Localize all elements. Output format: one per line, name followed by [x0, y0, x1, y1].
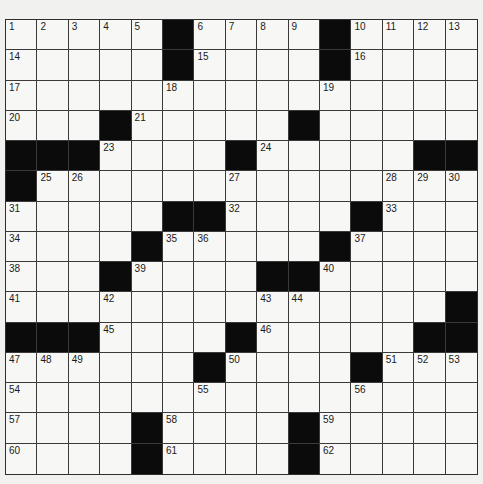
crossword-cell[interactable] [383, 262, 414, 292]
crossword-cell[interactable] [289, 81, 320, 111]
crossword-cell[interactable] [132, 50, 163, 80]
crossword-cell[interactable] [257, 81, 288, 111]
crossword-cell[interactable]: 55 [194, 383, 225, 413]
crossword-cell[interactable]: 20 [6, 111, 37, 141]
crossword-cell[interactable] [163, 141, 194, 171]
crossword-cell[interactable]: 52 [414, 353, 445, 383]
crossword-cell[interactable]: 4 [100, 20, 131, 50]
crossword-cell[interactable] [320, 171, 351, 201]
crossword-cell[interactable] [226, 262, 257, 292]
crossword-cell[interactable]: 18 [163, 81, 194, 111]
crossword-cell[interactable] [163, 292, 194, 322]
crossword-cell[interactable] [100, 202, 131, 232]
crossword-cell[interactable]: 35 [163, 232, 194, 262]
crossword-cell[interactable] [289, 232, 320, 262]
crossword-cell[interactable] [289, 323, 320, 353]
crossword-cell[interactable] [289, 141, 320, 171]
crossword-cell[interactable] [69, 232, 100, 262]
crossword-cell[interactable] [351, 323, 382, 353]
crossword-cell[interactable]: 50 [226, 353, 257, 383]
crossword-cell[interactable] [194, 111, 225, 141]
crossword-cell[interactable]: 10 [351, 20, 382, 50]
crossword-cell[interactable] [100, 383, 131, 413]
crossword-cell[interactable] [414, 202, 445, 232]
crossword-cell[interactable] [226, 444, 257, 474]
crossword-cell[interactable] [289, 171, 320, 201]
crossword-cell[interactable] [226, 413, 257, 443]
crossword-cell[interactable] [37, 413, 68, 443]
crossword-cell[interactable] [132, 383, 163, 413]
crossword-cell[interactable] [194, 444, 225, 474]
crossword-cell[interactable] [320, 141, 351, 171]
crossword-cell[interactable] [100, 171, 131, 201]
crossword-cell[interactable] [69, 413, 100, 443]
crossword-cell[interactable] [100, 50, 131, 80]
crossword-cell[interactable] [289, 383, 320, 413]
crossword-cell[interactable]: 39 [132, 262, 163, 292]
crossword-cell[interactable] [37, 292, 68, 322]
crossword-cell[interactable]: 21 [132, 111, 163, 141]
crossword-cell[interactable] [383, 292, 414, 322]
crossword-cell[interactable] [414, 111, 445, 141]
crossword-cell[interactable] [320, 111, 351, 141]
crossword-cell[interactable] [226, 111, 257, 141]
crossword-cell[interactable] [226, 232, 257, 262]
crossword-cell[interactable]: 8 [257, 20, 288, 50]
crossword-cell[interactable]: 11 [383, 20, 414, 50]
crossword-cell[interactable]: 14 [6, 50, 37, 80]
crossword-cell[interactable] [69, 262, 100, 292]
crossword-cell[interactable] [37, 202, 68, 232]
crossword-cell[interactable] [446, 111, 477, 141]
crossword-cell[interactable]: 3 [69, 20, 100, 50]
crossword-cell[interactable] [163, 111, 194, 141]
crossword-cell[interactable] [163, 383, 194, 413]
crossword-cell[interactable] [194, 141, 225, 171]
crossword-cell[interactable] [132, 292, 163, 322]
crossword-cell[interactable] [414, 292, 445, 322]
crossword-cell[interactable] [194, 171, 225, 201]
crossword-cell[interactable] [257, 111, 288, 141]
crossword-cell[interactable] [257, 171, 288, 201]
crossword-cell[interactable] [132, 323, 163, 353]
crossword-cell[interactable] [163, 171, 194, 201]
crossword-cell[interactable] [351, 141, 382, 171]
crossword-cell[interactable]: 59 [320, 413, 351, 443]
crossword-cell[interactable]: 23 [100, 141, 131, 171]
crossword-cell[interactable]: 28 [383, 171, 414, 201]
crossword-cell[interactable] [132, 81, 163, 111]
crossword-cell[interactable] [257, 232, 288, 262]
crossword-cell[interactable]: 36 [194, 232, 225, 262]
crossword-cell[interactable]: 9 [289, 20, 320, 50]
crossword-cell[interactable] [69, 383, 100, 413]
crossword-cell[interactable]: 44 [289, 292, 320, 322]
crossword-cell[interactable] [100, 444, 131, 474]
crossword-cell[interactable] [446, 232, 477, 262]
crossword-cell[interactable] [414, 444, 445, 474]
crossword-cell[interactable] [257, 50, 288, 80]
crossword-cell[interactable]: 49 [69, 353, 100, 383]
crossword-cell[interactable] [289, 50, 320, 80]
crossword-cell[interactable]: 24 [257, 141, 288, 171]
crossword-cell[interactable]: 17 [6, 81, 37, 111]
crossword-cell[interactable] [446, 413, 477, 443]
crossword-cell[interactable]: 41 [6, 292, 37, 322]
crossword-cell[interactable] [289, 353, 320, 383]
crossword-cell[interactable] [194, 413, 225, 443]
crossword-cell[interactable]: 53 [446, 353, 477, 383]
crossword-cell[interactable] [320, 292, 351, 322]
crossword-cell[interactable] [383, 232, 414, 262]
crossword-cell[interactable]: 40 [320, 262, 351, 292]
crossword-cell[interactable] [446, 262, 477, 292]
crossword-cell[interactable] [351, 444, 382, 474]
crossword-cell[interactable] [257, 383, 288, 413]
crossword-cell[interactable] [446, 202, 477, 232]
crossword-cell[interactable] [69, 111, 100, 141]
crossword-cell[interactable] [100, 353, 131, 383]
crossword-cell[interactable]: 54 [6, 383, 37, 413]
crossword-cell[interactable] [383, 383, 414, 413]
crossword-cell[interactable] [37, 111, 68, 141]
crossword-cell[interactable] [383, 413, 414, 443]
crossword-cell[interactable]: 16 [351, 50, 382, 80]
crossword-cell[interactable]: 51 [383, 353, 414, 383]
crossword-cell[interactable] [132, 353, 163, 383]
